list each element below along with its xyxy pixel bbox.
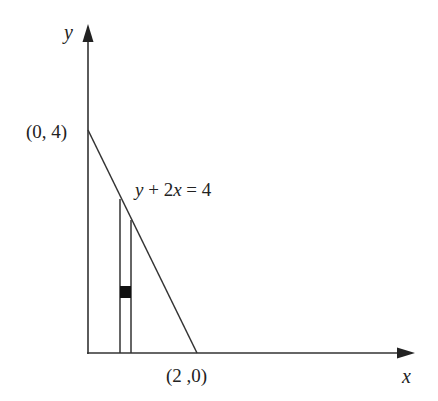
y-axis-arrow-icon <box>83 24 94 42</box>
y-intercept-label: (0, 4) <box>26 122 67 141</box>
equation-plus: + 2 <box>143 179 173 200</box>
black-square <box>120 286 131 298</box>
boundary-line <box>88 130 197 353</box>
equation-x: x <box>173 179 181 200</box>
x-axis-label: x <box>402 366 411 386</box>
x-intercept-label: (2 ,0) <box>166 366 207 385</box>
y-axis-label: y <box>64 22 73 42</box>
equation-label: y + 2x = 4 <box>135 180 211 199</box>
diagram-svg <box>0 0 438 401</box>
x-axis-arrow-icon <box>397 348 415 359</box>
equation-rest: = 4 <box>182 179 212 200</box>
diagram-canvas: y x (0, 4) (2 ,0) y + 2x = 4 <box>0 0 438 401</box>
